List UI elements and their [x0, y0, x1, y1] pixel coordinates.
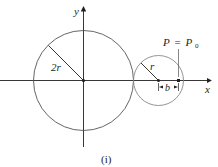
- diagram-canvas: y x 2r r b P = P 0 (i): [0, 0, 218, 167]
- point-label: P = P 0: [162, 36, 199, 50]
- b-arrow-left: [159, 86, 163, 89]
- caption: (i): [101, 153, 112, 166]
- b-arrow-right: [174, 86, 178, 89]
- y-axis-label: y: [73, 5, 79, 17]
- small-center-dot: [157, 79, 160, 82]
- large-center-dot: [82, 79, 85, 82]
- large-radius-label: 2r: [51, 61, 62, 73]
- offset-label: b: [165, 82, 170, 93]
- x-axis-label: x: [204, 83, 210, 95]
- point-p: [177, 79, 180, 82]
- small-radius-label: r: [150, 60, 155, 72]
